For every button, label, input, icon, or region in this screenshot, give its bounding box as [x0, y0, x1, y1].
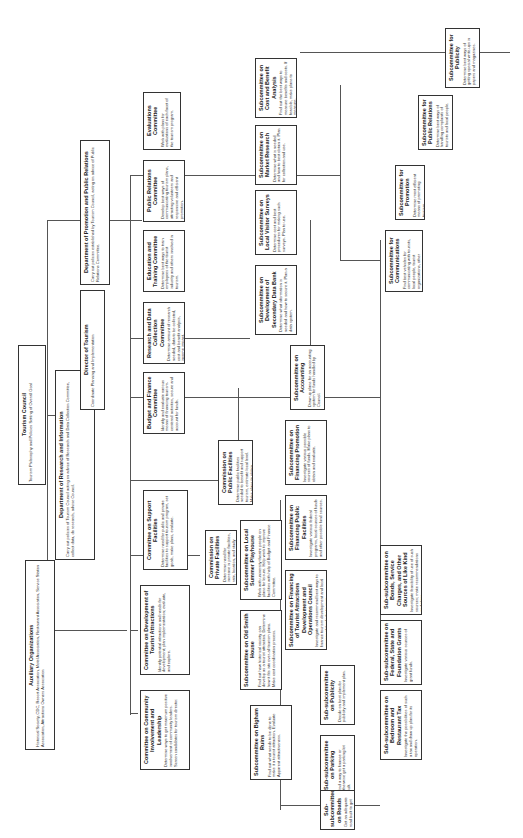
committee-box: Committee on Development of Tourist Attr…: [140, 585, 190, 675]
committee-box: Evaluations CommitteeWork with plans for…: [143, 92, 181, 150]
subcommittee-box: Subcommittee on Financing of Tourist Att…: [285, 570, 327, 650]
subcommittee-box: Subcommittee on Financing Public Facilit…: [285, 495, 327, 560]
subcommittee-box: Commission on Private FacilitiesDetermin…: [205, 530, 237, 585]
connector: [340, 85, 341, 260]
subcommittee-box: Subcommittee on Local Visitor SurveysDet…: [255, 190, 297, 255]
subcommittee-box: Subcommittee for CommunicationsFind best…: [385, 230, 423, 292]
subcommittee-box: Subcommittee for PromotionDetermine most…: [395, 165, 425, 220]
subcommittee-box: Subcommittee on AccountingDraw up plans …: [290, 345, 325, 410]
committee-box: Budget and Finance CommitteeIdentify and…: [143, 372, 185, 434]
connector: [47, 415, 55, 416]
subcommittee-box: Subcommittee on Cost and Benefit Analysi…: [255, 58, 297, 118]
subcommittee-box: Subcommittee for PublicityDetermine best…: [445, 28, 480, 88]
director-box: Director of TourismCoordinate Planning a…: [80, 290, 105, 410]
connector: [238, 388, 239, 448]
subcommittee-box: Sub-subcommittee on ParkingFind a way to…: [320, 735, 355, 795]
subcommittee-box: Subcommittee on Local Summer PlayhouseWo…: [240, 520, 282, 600]
connector: [340, 260, 380, 261]
connector: [130, 175, 131, 715]
subcommittee-box: Sub-subcommittee on PublicityDecide on b…: [320, 665, 355, 725]
auxiliary-organizations-box: Auxiliary OrganizationsHistorical Societ…: [25, 560, 55, 750]
committee-box: Research and Data Collection CommitteeDe…: [143, 302, 185, 364]
committee-box: Committee on Community Involvement and L…: [140, 690, 190, 770]
committee-box: Education and Training CommitteeDetermin…: [143, 230, 185, 292]
subcommittee-box: Sub-subcommittee on RoadsGet an adequate…: [320, 790, 355, 830]
connector: [47, 630, 127, 631]
subcommittee-box: Subcommittee on Old Smith HouseFind out …: [240, 610, 282, 690]
subcommittee-box: Sub-subcommittee on Federal, State and F…: [380, 620, 422, 685]
subcommittee-box: Subcommittee on Development of Secondary…: [255, 265, 297, 335]
promotion-department-box: Department of Promotion and Public Relat…: [80, 140, 110, 285]
committee-box: Public Relations CommitteeDevelop best w…: [143, 160, 185, 222]
tourism-council-box: Tourism CouncilTourism Philosophy and Po…: [18, 345, 46, 485]
committee-box: Committee on Support FacilitiesDetermine…: [143, 490, 188, 570]
connector: [130, 713, 138, 714]
subcommittee-box: Sub-subcommittee on Bedroom and Restaura…: [380, 690, 422, 760]
subcommittee-box: Sub-subcommittee on Bonds, Service Charg…: [380, 545, 422, 615]
subcommittee-box: Commission on Public FacilitiesDetermine…: [218, 440, 253, 505]
subcommittee-box: Subcommittee for Public RelationsDetermi…: [418, 95, 453, 150]
subcommittee-box: Subcommittee on Bigham RuinsFind out wha…: [250, 705, 292, 780]
subcommittee-box: Subcommittee on Market ResearchDetermine…: [255, 125, 297, 185]
connector: [130, 630, 138, 631]
subcommittee-box: Subcommittee on Financing PromotionInves…: [285, 420, 327, 485]
